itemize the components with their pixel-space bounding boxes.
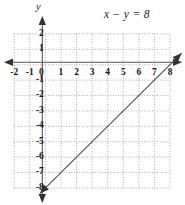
y-tick-label--8: -8 (36, 183, 44, 193)
y-axis-label: y (36, 1, 41, 12)
x-tick-label-2: 2 (74, 68, 79, 78)
x-tick-label-7: 7 (152, 68, 157, 78)
x-tick-label-5: 5 (121, 68, 126, 78)
y-tick-label-1: 1 (39, 44, 44, 54)
y-tick-label--4: -4 (36, 121, 44, 131)
y-tick-label--7: -7 (36, 167, 44, 177)
x-tick-label-3: 3 (90, 68, 95, 78)
x-tick-label-4: 4 (105, 68, 110, 78)
y-tick-label--1: -1 (36, 75, 44, 85)
y-tick-label--3: -3 (36, 106, 44, 116)
y-tick-label--2: -2 (36, 90, 44, 100)
x-tick-label-8: 8 (168, 68, 173, 78)
x-tick-label-1: 1 (59, 68, 64, 78)
y-tick-label--6: -6 (36, 152, 44, 162)
graph-figure: x − y = 8 y -2-101234567821-1-2-3-4-5-6-… (0, 0, 185, 205)
y-tick-label--5: -5 (36, 137, 44, 147)
equation-annotation: x − y = 8 (104, 8, 150, 20)
equation-text: x − y = 8 (104, 8, 150, 20)
x-tick-label--2: -2 (10, 68, 18, 78)
x-tick-label-6: 6 (136, 68, 141, 78)
coordinate-plane-svg (0, 0, 185, 205)
y-tick-label-2: 2 (39, 29, 44, 39)
x-tick-label--1: -1 (26, 68, 34, 78)
